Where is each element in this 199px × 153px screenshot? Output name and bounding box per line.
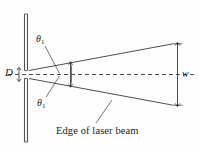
- slit-width-label: D: [5, 67, 13, 78]
- leader-line-theta-bottom: [46, 76, 60, 97]
- angle-label-top: θ1: [36, 34, 44, 46]
- barrier-icon: [25, 14, 28, 142]
- leader-line-caption: [96, 100, 112, 123]
- angle-label-bottom: θ1: [37, 98, 45, 110]
- beam-upper-edge-line: [29, 44, 172, 71]
- angle-label-top-subscript: 1: [41, 38, 45, 46]
- leader-line-theta-top: [45, 46, 60, 74]
- laser-diffraction-figure: D w θ1 θ1 Edge of laser beam: [0, 0, 199, 153]
- angle-label-bottom-subscript: 1: [42, 102, 46, 110]
- beam-edge-caption: Edge of laser beam: [56, 126, 139, 137]
- beam-lower-edge-line: [29, 79, 172, 106]
- beam-width-dimension-arrow: [172, 42, 183, 107]
- beam-width-label: w: [182, 69, 189, 79]
